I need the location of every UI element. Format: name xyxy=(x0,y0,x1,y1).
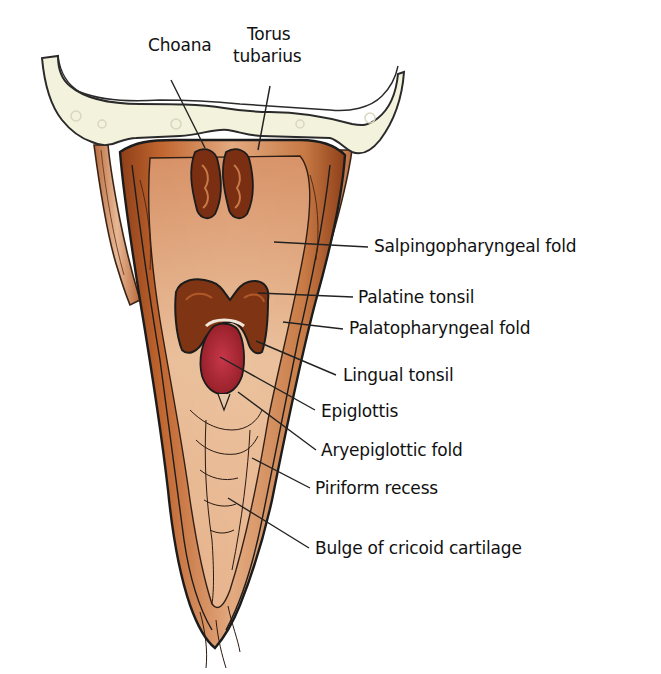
label-palatopharyngeal-fold: Palatopharyngeal fold xyxy=(349,318,530,338)
label-bulge-of-cricoid-cartilage: Bulge of cricoid cartilage xyxy=(315,538,522,558)
pharynx-illustration xyxy=(0,0,661,674)
pharynx-diagram: Choana Torus tubarius Salpingopharyngeal… xyxy=(0,0,661,674)
label-piriform-recess: Piriform recess xyxy=(315,478,438,498)
label-palatine-tonsil: Palatine tonsil xyxy=(358,287,474,307)
label-epiglottis: Epiglottis xyxy=(321,401,398,421)
label-aryepiglottic-fold: Aryepiglottic fold xyxy=(321,440,463,460)
label-torus-tubarius-line2: tubarius xyxy=(233,46,301,66)
label-lingual-tonsil: Lingual tonsil xyxy=(343,365,453,385)
pharynx-body xyxy=(120,140,345,668)
label-torus-tubarius-line1: Torus xyxy=(247,24,291,44)
label-choana: Choana xyxy=(148,35,211,55)
skull-base xyxy=(42,56,404,153)
label-salpingopharyngeal-fold: Salpingopharyngeal fold xyxy=(374,236,576,256)
